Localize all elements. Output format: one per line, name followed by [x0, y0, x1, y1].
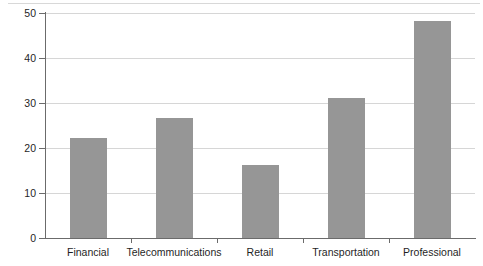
y-tick-label: 10 — [0, 188, 36, 199]
x-tick-mark — [217, 239, 218, 243]
y-tick-label: 30 — [0, 98, 36, 109]
x-tick-mark — [131, 239, 132, 243]
x-axis-line — [44, 238, 476, 239]
bar — [156, 118, 193, 238]
y-tick-label: 0 — [0, 233, 36, 244]
x-axis-category-label: Professional — [352, 246, 483, 258]
y-tick-label: 20 — [0, 143, 36, 154]
x-tick-mark — [303, 239, 304, 243]
bar-chart: 01020304050 FinancialTelecommunicationsR… — [0, 0, 483, 266]
top-divider — [8, 3, 480, 4]
bar — [328, 98, 365, 238]
y-tick-label: 40 — [0, 53, 36, 64]
bar — [242, 165, 279, 238]
bar — [414, 21, 451, 238]
plot-area — [45, 13, 475, 238]
bar — [70, 138, 107, 238]
x-tick-mark — [389, 239, 390, 243]
y-tick-label: 50 — [0, 8, 36, 19]
